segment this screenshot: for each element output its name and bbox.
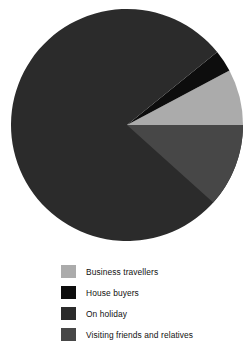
pie-chart-page: Business travellers House buyers On holi… xyxy=(0,0,248,347)
legend-swatch-icon xyxy=(61,328,76,341)
legend-item-label: Business travellers xyxy=(86,267,158,277)
pie-slice-group xyxy=(11,9,243,241)
pie-chart xyxy=(0,0,248,250)
chart-legend: Business travellers House buyers On holi… xyxy=(61,261,248,345)
legend-item-label: House buyers xyxy=(86,288,139,298)
legend-swatch-icon xyxy=(61,307,76,320)
legend-item-on-holiday[interactable]: On holiday xyxy=(61,303,248,324)
legend-item-business-travellers[interactable]: Business travellers xyxy=(61,261,248,282)
legend-item-label: Visiting friends and relatives xyxy=(86,330,193,340)
chart-area xyxy=(0,0,248,250)
legend-swatch-icon xyxy=(61,286,76,299)
legend-item-label: On holiday xyxy=(86,309,127,319)
legend-item-house-buyers[interactable]: House buyers xyxy=(61,282,248,303)
legend-item-visiting-friends-and-relatives[interactable]: Visiting friends and relatives xyxy=(61,324,248,345)
legend-swatch-icon xyxy=(61,265,76,278)
